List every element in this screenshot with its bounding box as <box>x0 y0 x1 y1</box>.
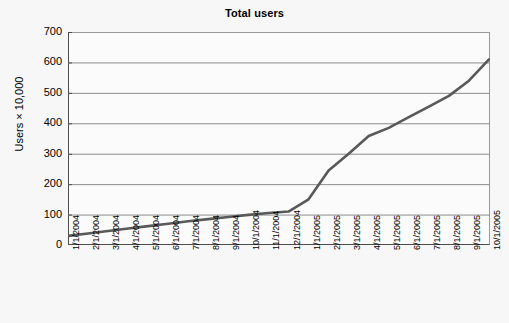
x-axis-tick-label: 9/1/2005 <box>473 215 482 250</box>
x-axis-tick-label: 8/1/2004 <box>212 215 221 250</box>
y-axis-tick-label: 500 <box>22 87 62 98</box>
x-axis-tick-label: 3/1/2005 <box>353 215 362 250</box>
x-axis-tick-label: 12/1/2004 <box>293 210 302 250</box>
x-axis-tick-label: 1/1/2005 <box>313 215 322 250</box>
y-axis-tick-label: 200 <box>22 178 62 189</box>
y-axis-tick-label: 100 <box>22 209 62 220</box>
y-axis-tick-labels: 7006005004003002001000 <box>18 32 62 245</box>
x-axis-tick-label: 7/1/2004 <box>192 215 201 250</box>
x-axis-tick-label: 11/1/2004 <box>272 211 281 250</box>
x-axis-tick-label: 9/1/2004 <box>232 215 241 250</box>
x-axis-tick-label: 10/1/2005 <box>493 210 502 250</box>
x-axis-tick-label: 5/1/2004 <box>152 215 161 250</box>
x-axis-tick-label: 2/1/2004 <box>92 215 101 250</box>
x-axis-tick-label: 4/1/2005 <box>373 215 382 250</box>
x-axis-tick-label: 8/1/2005 <box>453 215 462 250</box>
y-axis-tick-label: 600 <box>22 56 62 67</box>
x-axis-tick-label: 7/1/2005 <box>433 215 442 250</box>
x-axis-tick-label: 5/1/2005 <box>393 215 402 250</box>
data-series-line <box>68 59 489 235</box>
x-axis-tick-label: 1/1/2004 <box>72 215 81 250</box>
y-axis-tick-label: 700 <box>22 26 62 37</box>
x-axis-tick-label: 4/1/2004 <box>132 215 141 250</box>
x-axis-tick-label: 6/1/2004 <box>172 215 181 250</box>
x-axis-tick-label: 3/1/2004 <box>112 215 121 250</box>
y-axis-tick-label: 300 <box>22 148 62 159</box>
y-axis-tick-label: 400 <box>22 117 62 128</box>
x-axis-tick-label: 10/1/2004 <box>252 210 261 250</box>
x-axis-tick-label: 2/1/2005 <box>333 215 342 250</box>
x-axis-tick-label: 6/1/2005 <box>413 215 422 250</box>
x-axis-tick-labels: 1/1/20042/1/20043/1/20044/1/20045/1/2004… <box>68 250 490 320</box>
y-axis-tick-label: 0 <box>22 239 62 250</box>
chart-title: Total users <box>0 7 509 19</box>
chart-container: Total users Users × 10,000 7006005004003… <box>0 0 509 323</box>
